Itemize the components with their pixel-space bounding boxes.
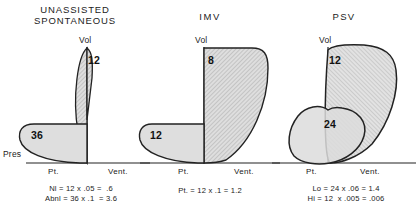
loop-value-24: 24 [324,118,336,130]
loop-value-12: 12 [150,129,162,141]
x-axis-label-left: Pt. [178,167,189,176]
formula-line-1: Nl = 12 x .05 = .6 [6,184,156,194]
panel-psv: PSV Vol 12 24 Pt. Vent. Lo = 24 x .06 = … [272,0,416,219]
panel-imv: IMV Vol 8 12 Pt. Vent. Pt. = 12 x .1 = 1… [140,0,280,219]
figure-canvas: UNASSISTED SPONTANEOUS Vol Pres [0,0,416,219]
x-axis-label-right: Vent. [360,167,380,176]
x-axis-label-left: Pt. [306,167,317,176]
formula-line-1: Lo = 24 x .06 = 1.4 [274,184,416,194]
loop-value-8: 8 [208,54,214,66]
loop-pressure-36 [20,124,87,163]
x-axis-label-left: Pt. [48,167,59,176]
x-axis-label-right: Vent. [234,167,254,176]
panel-unassisted-spontaneous: UNASSISTED SPONTANEOUS Vol Pres [0,0,150,219]
formula-line-1: Pt. = 12 x .1 = 1.2 [140,186,280,196]
x-axis-label-right: Vent. [108,167,128,176]
loop-value-12: 12 [329,54,341,66]
loop-value-12: 12 [88,54,100,66]
formula-line-2: Hi = 12 x .005 = .006 [274,194,416,204]
formula-line-2: Abnl = 36 x .1 = 3.6 [6,194,156,204]
loop-value-36: 36 [31,129,43,141]
